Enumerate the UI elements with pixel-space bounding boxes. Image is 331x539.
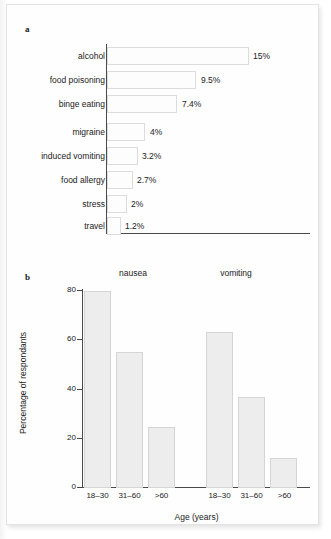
y-tick-20: [77, 438, 82, 439]
y-tick-label-wrap: 0: [50, 482, 76, 492]
y-tick-label: 80: [52, 285, 76, 294]
panel-b-label: b: [25, 272, 30, 282]
y-tick-label: 20: [52, 433, 76, 442]
y-tick-label: 0: [52, 482, 76, 491]
figure-page: a alcohol 15% food poisoning 9.5% binge …: [0, 0, 331, 539]
y-tick-0: [77, 487, 82, 488]
y-tick-label: 60: [52, 334, 76, 343]
bar-vomiting-over-60: [270, 458, 297, 488]
bar-vomiting-18-30: [206, 332, 233, 488]
bar-nausea-18-30: [84, 291, 111, 488]
bar-nausea-31-60: [116, 352, 143, 488]
y-tick-label-wrap: 80: [50, 285, 76, 295]
y-tick-label-wrap: 40: [50, 384, 76, 394]
x-axis-title: Age (years): [83, 512, 310, 522]
group-title-vomiting: vomiting: [196, 268, 276, 278]
y-tick-label: 40: [52, 384, 76, 393]
y-tick-80: [77, 290, 82, 291]
y-tick-label-wrap: 60: [50, 334, 76, 344]
panel-b-vertical-bar-chart: b nausea vomiting 80 60 40 20 0: [0, 0, 331, 539]
y-tick-60: [77, 339, 82, 340]
y-tick-label-wrap: 20: [50, 433, 76, 443]
group-title-nausea: nausea: [93, 268, 173, 278]
bar-nausea-over-60: [148, 427, 175, 488]
y-axis-title: Percentage of respondants: [18, 308, 28, 458]
x-tick-label-nausea-over-60: >60: [142, 491, 181, 500]
x-tick-label-vomiting-over-60: >60: [265, 491, 304, 500]
y-tick-40: [77, 389, 82, 390]
bar-vomiting-31-60: [238, 397, 265, 488]
